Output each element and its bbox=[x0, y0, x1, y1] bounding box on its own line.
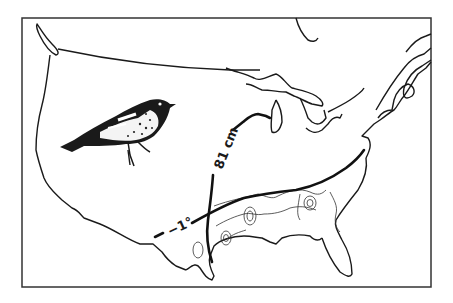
bird-illustration bbox=[60, 99, 176, 166]
range-map: 81 cm −1° bbox=[0, 0, 453, 303]
temperature-isoline-label: −1° bbox=[165, 214, 195, 239]
contour-lines bbox=[193, 190, 340, 258]
precipitation-isoline-label: 81 cm bbox=[211, 125, 241, 171]
